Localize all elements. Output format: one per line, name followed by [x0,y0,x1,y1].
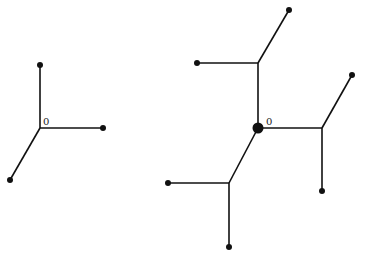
tree-small-leaf-node [7,177,13,183]
tree-small-leaf-node [100,125,106,131]
tree-large-leaf-node [319,188,325,194]
tree-large-root-node [253,123,264,134]
tree-large-edge [258,10,289,63]
tree-small-edge [10,128,40,180]
tree-large-leaf-node [286,7,292,13]
tree-large-edge [229,128,258,183]
tree-small-leaf-node [37,62,43,68]
tree-large-edge [322,75,352,128]
tree-large-leaf-node [194,60,200,66]
tree-large-leaf-node [226,244,232,250]
tree-small-root-label: 0 [43,116,49,127]
tree-large-leaf-node [165,180,171,186]
tree-large-leaf-node [349,72,355,78]
tree-large-root-label: 0 [266,116,272,127]
diagram-canvas: 00 [0,0,365,256]
